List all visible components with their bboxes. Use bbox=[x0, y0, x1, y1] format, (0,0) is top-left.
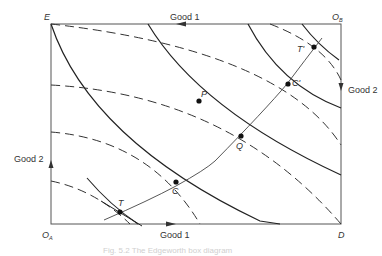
corner-label-ob-sub: B bbox=[339, 17, 343, 23]
corner-label-oa-main: O bbox=[42, 230, 49, 240]
box-frame bbox=[51, 24, 341, 224]
corner-label-d: D bbox=[338, 230, 345, 240]
axis-label-bottom: Good 1 bbox=[160, 230, 190, 240]
indifference-curve-b5 bbox=[270, 24, 341, 80]
corner-label-ob-main: O bbox=[332, 12, 339, 22]
axis-label-top: Good 1 bbox=[170, 12, 200, 22]
corner-label-ob: OB bbox=[332, 12, 343, 23]
point-t-prime bbox=[311, 44, 316, 49]
indifference-curve-a2 bbox=[51, 24, 280, 224]
indifference-curve-a4 bbox=[248, 24, 341, 108]
corner-label-e: E bbox=[44, 12, 51, 22]
top-axis-arrow-icon bbox=[176, 22, 186, 27]
corner-label-oa-sub: A bbox=[48, 235, 53, 241]
axis-label-right: Good 2 bbox=[348, 85, 378, 95]
figure-caption: Fig. 5.2 The Edgeworth box diagram bbox=[103, 246, 233, 255]
label-p: P bbox=[201, 89, 207, 99]
indifference-curve-a5 bbox=[302, 24, 339, 60]
label-t: T bbox=[118, 198, 125, 208]
right-axis-arrow-icon bbox=[339, 83, 344, 91]
label-c: C bbox=[172, 186, 179, 196]
point-t bbox=[117, 209, 122, 214]
point-p bbox=[196, 98, 201, 103]
point-q bbox=[238, 133, 243, 138]
left-axis-arrow-icon bbox=[49, 160, 54, 168]
corner-label-oa: OA bbox=[42, 230, 53, 241]
edgeworth-box-diagram: T C Q P C' T' E OB OA D Good 1 Good 1 Go… bbox=[0, 0, 382, 256]
label-c-prime: C' bbox=[292, 78, 300, 88]
indifference-curve-a1 bbox=[87, 178, 138, 224]
indifference-curve-b3 bbox=[51, 85, 341, 224]
axis-label-left: Good 2 bbox=[14, 154, 44, 164]
point-c bbox=[173, 179, 178, 184]
bottom-axis-arrow-icon bbox=[166, 222, 176, 227]
label-q: Q bbox=[236, 141, 243, 151]
contract-curve bbox=[104, 38, 322, 220]
label-t-prime: T' bbox=[297, 44, 304, 54]
point-c-prime bbox=[285, 81, 290, 86]
